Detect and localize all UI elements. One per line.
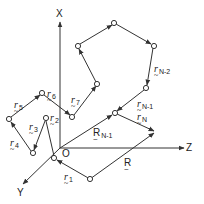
bond-rN3	[116, 24, 151, 44]
node	[87, 176, 92, 181]
node	[143, 85, 148, 90]
node	[75, 43, 80, 48]
label-r7: r7~	[71, 95, 80, 106]
label-rN-2: rN-2~	[154, 64, 170, 75]
label-rN: rN~	[137, 112, 147, 123]
node	[51, 155, 56, 160]
node	[39, 90, 44, 95]
node	[69, 114, 74, 119]
label-r2: r2~	[50, 113, 59, 124]
label-rN-1: rN-1~	[137, 99, 153, 110]
label-R: R~	[124, 158, 131, 168]
diagram-graphics	[0, 0, 204, 204]
label-r3: r3~	[29, 122, 38, 133]
bond-r8	[79, 49, 96, 82]
node	[30, 150, 35, 155]
label-r5: r5~	[14, 100, 23, 111]
y-axis-label: Y	[17, 188, 24, 198]
bond-rN	[117, 114, 154, 131]
bond-r1	[57, 160, 90, 179]
node	[112, 110, 117, 115]
node	[43, 115, 48, 120]
label-R-N-1: RN-1~	[93, 128, 113, 139]
vector-R-line	[90, 133, 154, 179]
y-axis	[23, 148, 60, 184]
bond-r9	[80, 25, 112, 44]
label-r6: r6~	[47, 89, 56, 100]
x-axis-label: X	[56, 9, 63, 19]
node	[151, 43, 156, 48]
origin-label: O	[62, 149, 70, 159]
bond-rN2	[147, 48, 153, 85]
label-r1: r1~	[64, 172, 73, 183]
label-r4: r4~	[10, 138, 19, 149]
chain-diagram: X Z Y O r1~ r2~ r3~ r4~ r5~ r6~ r7~ rN-2…	[0, 0, 204, 204]
z-axis-label: Z	[186, 143, 192, 153]
node	[94, 81, 99, 86]
node	[6, 116, 11, 121]
node	[111, 20, 116, 25]
